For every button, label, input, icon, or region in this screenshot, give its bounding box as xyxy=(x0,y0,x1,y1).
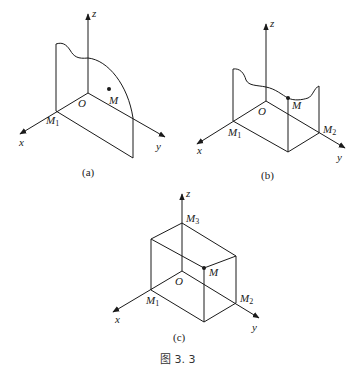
M3-label: M3 xyxy=(185,212,199,226)
surface-curve xyxy=(233,69,319,100)
panel-c: z x y O M M1 M2 M3 (c) xyxy=(113,187,259,344)
base-edge-M1 xyxy=(233,121,288,152)
figure-caption: 图 3. 3 xyxy=(160,353,196,366)
M1-label: M1 xyxy=(45,114,59,128)
M2-label: M2 xyxy=(322,123,336,137)
origin-label: O xyxy=(258,105,266,117)
x-label: x xyxy=(196,144,202,156)
z-label: z xyxy=(269,17,275,29)
caption-c: (c) xyxy=(173,331,186,344)
M-label: M xyxy=(291,99,302,111)
z-label: z xyxy=(91,7,97,19)
point-M xyxy=(286,96,290,100)
panel-b: z x y O M M1 M2 (b) xyxy=(196,17,345,182)
z-label: z xyxy=(185,187,191,199)
base-edge-M2 xyxy=(288,133,319,152)
surface-curve xyxy=(56,43,133,118)
y-axis xyxy=(88,93,165,137)
top-edge-front-left xyxy=(151,239,204,268)
point-M xyxy=(202,266,206,270)
y-label: y xyxy=(336,151,342,163)
x-label: x xyxy=(114,313,120,325)
top-edge-M3-y xyxy=(182,223,236,256)
panel-a: z x y O M M1 (a) xyxy=(18,7,165,179)
plane-bottom-edge xyxy=(56,111,133,158)
caption-b: (b) xyxy=(261,169,274,182)
figure-3-3: z x y O M M1 (a) z x y O M M1 M2 xyxy=(0,0,357,372)
point-M xyxy=(107,87,111,91)
y-label: y xyxy=(251,321,257,333)
M1-label: M1 xyxy=(145,294,159,308)
M2-label: M2 xyxy=(239,292,253,306)
x-label: x xyxy=(18,136,24,148)
top-edge-M3-x xyxy=(151,223,182,239)
caption-a: (a) xyxy=(82,166,95,179)
M-label: M xyxy=(108,94,119,106)
y-label: y xyxy=(155,140,161,152)
M1-label: M1 xyxy=(227,126,241,140)
base-edge-M2 xyxy=(204,303,236,322)
M-label: M xyxy=(208,266,219,278)
origin-label: O xyxy=(78,97,86,109)
origin-label: O xyxy=(175,275,183,287)
